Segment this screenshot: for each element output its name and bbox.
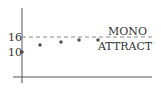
- y-tick-10: 10: [8, 47, 22, 58]
- data-point: [77, 38, 81, 42]
- annotation-mono: MONO: [108, 26, 147, 37]
- data-point: [59, 40, 63, 44]
- data-point: [38, 43, 42, 47]
- annotation-attract: ATTRACT: [98, 41, 152, 52]
- y-tick-16: 16: [8, 32, 22, 43]
